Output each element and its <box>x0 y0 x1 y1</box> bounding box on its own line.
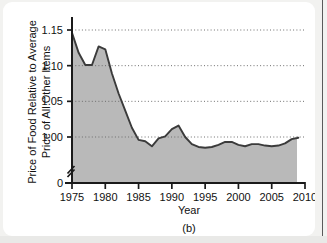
page-bottom-shade <box>0 236 327 243</box>
x-tick-label: 1995 <box>193 191 217 203</box>
x-tick-label: 1985 <box>126 191 150 203</box>
food-price-relative-chart: 01.001.051.101.15 1975198019851990199520… <box>3 2 315 236</box>
x-tick-label: 2005 <box>259 191 283 203</box>
x-tick-label: 2000 <box>226 191 250 203</box>
y-tick-label: 1.15 <box>42 24 63 36</box>
figure-caption: (b) <box>182 222 195 234</box>
data-area-fill <box>72 33 298 183</box>
page-right-rule <box>322 0 323 243</box>
y-axis-title-line1: Price of Food Relative to Average <box>26 20 38 184</box>
x-tick-label: 2010 <box>293 191 315 203</box>
x-tick-label: 1975 <box>60 191 84 203</box>
x-tick-labels-group: 19751980198519901995200020052010 <box>60 191 315 203</box>
x-tick-label: 1980 <box>93 191 117 203</box>
y-axis-title-line2: Price of All Other Items <box>40 45 52 158</box>
x-axis-title: Year <box>178 204 201 216</box>
y-tick-label: 0 <box>57 177 63 189</box>
x-tick-label: 1990 <box>160 191 184 203</box>
figure-card: 01.001.051.101.15 1975198019851990199520… <box>3 2 315 236</box>
